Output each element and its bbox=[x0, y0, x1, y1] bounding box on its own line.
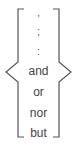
semicolon-item: ; bbox=[0, 25, 77, 37]
conjunction-but: but bbox=[0, 127, 77, 139]
conjunction-or: or bbox=[0, 86, 77, 98]
conjunction-and: and bbox=[0, 65, 77, 77]
comma-item: , bbox=[0, 6, 77, 18]
conjunction-nor: nor bbox=[0, 107, 77, 119]
colon-item: : bbox=[0, 45, 77, 57]
